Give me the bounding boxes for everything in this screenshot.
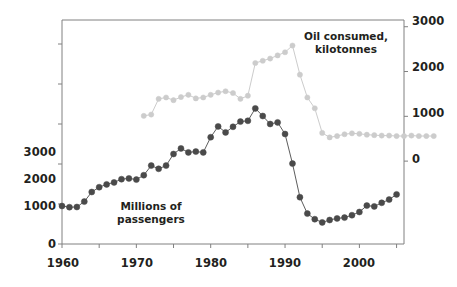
data-point [320,130,325,135]
data-point [208,134,214,140]
y-left-tick-label-1000: 1000 [14,199,56,213]
data-point [275,53,280,58]
data-point [319,219,325,225]
data-point [267,121,273,127]
x-tick-label-2000: 2000 [337,256,381,270]
data-point [304,211,310,217]
data-point [186,92,191,97]
data-point [401,133,406,138]
data-point [252,105,258,111]
data-point [230,90,235,95]
data-point [193,149,199,155]
data-point [260,113,266,119]
chart-container: 3000 2000 1000 0 3000 2000 1000 0 1960 1… [0,0,457,287]
data-point [149,112,154,117]
data-point [372,133,377,138]
x-ticks [62,244,397,248]
data-point [297,194,303,200]
data-point [349,131,354,136]
data-point [305,95,310,100]
y-left-ticks [58,44,62,244]
data-point [133,177,139,183]
data-point [416,133,421,138]
data-point [104,181,110,187]
data-point [282,131,288,137]
y-right-tick-label-0: 0 [412,152,420,166]
data-point [163,95,168,100]
oil-series-annotation: Oil consumed, kilotonnes [291,30,401,56]
oil-annotation-line2: kilotonnes [291,43,401,56]
data-point [357,131,362,136]
data-point [327,135,332,140]
data-point [126,175,132,181]
y-right-tick-label-2000: 2000 [412,60,444,74]
data-point [379,200,385,206]
data-point [141,113,146,118]
data-point [253,60,258,65]
data-point [386,197,392,203]
data-point [356,209,362,215]
data-point [364,132,369,137]
data-point [66,204,72,210]
y-left-tick-label-2000: 2000 [14,172,56,186]
y-right-tick-label-1000: 1000 [412,106,444,120]
data-point [74,204,80,210]
data-point [260,58,265,63]
data-point [111,179,117,185]
data-point [409,133,414,138]
series-oil [141,43,436,140]
data-point [245,93,250,98]
data-point [312,106,317,111]
data-point [349,212,355,218]
y-right-ticks [404,27,408,161]
y-left-tick-label-3000: 3000 [14,145,56,159]
data-point [118,176,124,182]
data-point [171,151,177,157]
data-point [148,163,154,169]
data-point [312,216,318,222]
data-point [141,172,147,178]
passengers-series-annotation: Millions of passengers [101,200,201,226]
data-point [215,123,221,129]
data-point [275,119,281,125]
data-point [230,124,236,130]
data-point [178,145,184,151]
passengers-annotation-line1: Millions of [101,200,201,213]
data-point [364,203,370,209]
data-point [379,133,384,138]
data-point [327,217,333,223]
data-point [238,96,243,101]
data-point [201,95,206,100]
data-point [81,199,87,205]
oil-annotation-line1: Oil consumed, [291,30,401,43]
x-tick-label-1980: 1980 [189,256,233,270]
data-point [200,149,206,155]
passengers-annotation-line2: passengers [101,213,201,226]
data-point [334,215,340,221]
data-point [424,133,429,138]
data-point [394,191,400,197]
data-point [96,184,102,190]
data-point [208,92,213,97]
y-right-tick-label-3000: 3000 [412,14,444,28]
data-point [193,96,198,101]
data-point [223,129,229,135]
data-point [297,72,302,77]
data-point [431,133,436,138]
data-point [268,56,273,61]
data-point [163,163,169,169]
data-point [185,149,191,155]
data-point [245,118,251,124]
data-point [223,89,228,94]
data-point [216,90,221,95]
data-point [289,161,295,167]
x-tick-label-1990: 1990 [263,256,307,270]
data-point [156,166,162,172]
data-point [334,133,339,138]
data-point [371,203,377,209]
x-tick-label-1960: 1960 [41,256,85,270]
data-point [387,133,392,138]
data-point [59,203,65,209]
data-point [342,215,348,221]
data-point [394,133,399,138]
